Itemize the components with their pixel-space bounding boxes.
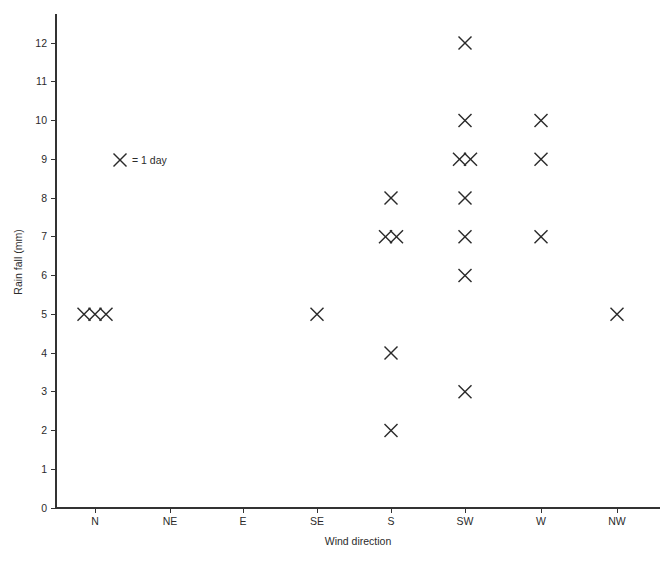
data-point-sw-9 bbox=[453, 153, 466, 166]
data-point-s-7 bbox=[390, 230, 403, 243]
x-axis-title: Wind direction bbox=[325, 535, 392, 547]
data-point-sw-6 bbox=[459, 269, 472, 282]
y-tick-label: 2 bbox=[41, 424, 47, 436]
y-tick-label: 7 bbox=[41, 230, 47, 242]
y-tick-label: 8 bbox=[41, 192, 47, 204]
y-tick-label: 0 bbox=[41, 502, 47, 514]
data-point-sw-3 bbox=[459, 385, 472, 398]
data-point-s-2 bbox=[385, 424, 398, 437]
data-point-nw-5 bbox=[611, 308, 624, 321]
x-tick-label-s: S bbox=[387, 515, 394, 527]
data-point-s-8 bbox=[385, 192, 398, 205]
legend-cross-icon bbox=[114, 154, 127, 167]
data-point-sw-7 bbox=[459, 230, 472, 243]
data-point-sw-9 bbox=[464, 153, 477, 166]
y-tick-label: 9 bbox=[41, 153, 47, 165]
x-tick-label-n: N bbox=[91, 515, 99, 527]
data-point-w-10 bbox=[535, 114, 548, 127]
y-axis-title: Rain fall (mm) bbox=[12, 229, 24, 294]
data-point-n-5 bbox=[78, 308, 91, 321]
x-tick-label-e: E bbox=[239, 515, 246, 527]
y-tick-label: 5 bbox=[41, 308, 47, 320]
y-tick-label: 4 bbox=[41, 347, 47, 359]
legend: = 1 day bbox=[114, 154, 168, 167]
y-tick-label: 10 bbox=[35, 114, 47, 126]
legend-cross-icon bbox=[114, 154, 127, 167]
data-point-sw-10 bbox=[459, 114, 472, 127]
x-tick-label-nw: NW bbox=[608, 515, 626, 527]
data-point-n-5 bbox=[100, 308, 113, 321]
x-tick-label-sw: SW bbox=[457, 515, 474, 527]
data-point-n-5 bbox=[89, 308, 102, 321]
y-axis-ticks: 0123456789101112 bbox=[35, 37, 56, 514]
data-point-s-4 bbox=[385, 347, 398, 360]
axes-group bbox=[56, 14, 660, 508]
chart-canvas: 0123456789101112 NNEESESSWWNW = 1 day Wi… bbox=[0, 0, 669, 562]
data-point-sw-8 bbox=[459, 192, 472, 205]
x-tick-label-w: W bbox=[536, 515, 546, 527]
y-tick-label: 6 bbox=[41, 269, 47, 281]
y-tick-label: 1 bbox=[41, 463, 47, 475]
data-point-se-5 bbox=[311, 308, 324, 321]
x-axis-ticks: NNEESESSWWNW bbox=[91, 508, 626, 527]
y-tick-label: 12 bbox=[35, 37, 47, 49]
legend-label: = 1 day bbox=[132, 154, 167, 166]
x-tick-label-se: SE bbox=[310, 515, 324, 527]
data-point-w-9 bbox=[535, 153, 548, 166]
data-point-w-7 bbox=[535, 230, 548, 243]
y-tick-label: 3 bbox=[41, 385, 47, 397]
x-tick-label-ne: NE bbox=[163, 515, 178, 527]
y-tick-label: 11 bbox=[36, 75, 47, 87]
data-point-s-7 bbox=[379, 230, 392, 243]
scatter-chart: 0123456789101112 NNEESESSWWNW = 1 day Wi… bbox=[0, 0, 669, 562]
data-point-sw-12 bbox=[459, 37, 472, 50]
data-markers-group bbox=[78, 37, 624, 438]
